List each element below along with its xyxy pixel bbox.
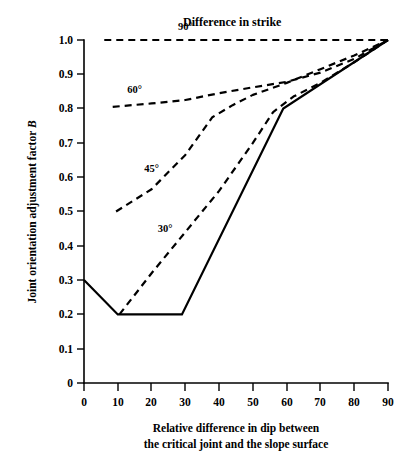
y-axis-title-text: Joint orientation adjustment factor xyxy=(26,128,39,303)
y-tick-label: 0.4 xyxy=(59,240,74,252)
x-axis-caption-line1: Relative difference in dip between xyxy=(153,422,320,435)
y-axis-title-symbol: B xyxy=(26,120,38,129)
y-axis-tick-labels: 1.0 0.9 0.8 0.7 0.6 0.5 0.4 0.3 0.2 0.1 … xyxy=(59,34,74,389)
y-tick-label: 0 xyxy=(67,377,73,389)
x-axis-ticks xyxy=(84,383,388,391)
series-curve-solid xyxy=(84,40,388,314)
y-tick-label: 0.3 xyxy=(59,274,74,286)
x-axis-tick-labels: 0 10 20 30 40 50 60 70 80 90 xyxy=(81,396,394,408)
series-labels-group: 90°60°45°30° xyxy=(127,21,192,234)
y-tick-label: 0.8 xyxy=(59,102,74,114)
chart-series-group xyxy=(84,40,388,314)
chart-title: Difference in strike xyxy=(183,15,282,29)
series-label-45: 45° xyxy=(144,163,159,174)
y-axis-ticks xyxy=(77,40,84,383)
x-tick-label: 20 xyxy=(145,396,157,408)
y-tick-label: 0.2 xyxy=(59,308,74,320)
y-tick-label: 0.9 xyxy=(59,68,74,80)
y-axis-title: Joint orientation adjustment factor B xyxy=(26,120,39,303)
x-tick-label: 70 xyxy=(314,396,326,408)
y-tick-label: 0.7 xyxy=(59,137,74,149)
x-tick-label: 90 xyxy=(382,396,394,408)
x-tick-label: 40 xyxy=(213,396,225,408)
series-label-60: 60° xyxy=(127,84,142,95)
x-axis-caption-line2: the critical joint and the slope surface xyxy=(144,438,329,451)
series-curve-60 xyxy=(113,40,388,107)
x-tick-label: 0 xyxy=(81,396,87,408)
x-tick-label: 50 xyxy=(247,396,259,408)
y-tick-label: 0.6 xyxy=(59,171,74,183)
chart-figure: 1.0 0.9 0.8 0.7 0.6 0.5 0.4 0.3 0.2 0.1 … xyxy=(0,0,417,469)
series-label-30: 30° xyxy=(158,223,173,234)
y-tick-label: 0.1 xyxy=(59,343,74,355)
x-tick-label: 10 xyxy=(112,396,124,408)
chart-svg: 1.0 0.9 0.8 0.7 0.6 0.5 0.4 0.3 0.2 0.1 … xyxy=(0,0,417,469)
x-tick-label: 60 xyxy=(281,396,293,408)
series-curve-30 xyxy=(119,40,388,314)
x-tick-label: 80 xyxy=(348,396,360,408)
y-tick-label: 0.5 xyxy=(59,205,74,217)
y-tick-label: 1.0 xyxy=(59,34,74,46)
x-tick-label: 30 xyxy=(179,396,191,408)
